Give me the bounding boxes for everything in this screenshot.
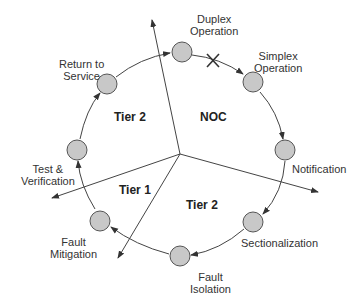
label-return-to-service: Return to Service	[59, 58, 104, 82]
region-noc: NOC	[200, 110, 227, 124]
node-fault-isolation	[170, 246, 190, 266]
arc-notification-sectionalization	[263, 161, 285, 214]
label-notification: Notification	[292, 163, 346, 175]
arc-simplex-notification	[260, 92, 283, 139]
node-test-verification	[67, 140, 87, 160]
node-notification	[275, 140, 295, 160]
label-duplex: Duplex Operation	[190, 13, 238, 37]
arc-test-return	[80, 93, 100, 139]
arc-isolation-mitigation	[111, 227, 169, 254]
arc-sectionalization-isolation	[191, 229, 244, 255]
label-fault-mitigation: Fault Mitigation	[50, 236, 97, 260]
axis-up	[152, 20, 180, 154]
axis-down	[118, 154, 180, 258]
node-fault-mitigation	[90, 211, 110, 231]
node-sectionalization	[243, 212, 263, 232]
label-simplex: Simplex Operation	[254, 50, 302, 74]
region-tier2-top: Tier 2	[114, 110, 146, 124]
node-duplex	[172, 42, 192, 62]
region-tier2-bottom: Tier 2	[186, 198, 218, 212]
region-tier1: Tier 1	[119, 183, 151, 197]
label-sectionalization: Sectionalization	[241, 237, 318, 249]
label-fault-isolation: Fault Isolation	[190, 271, 231, 295]
arc-mitigation-test	[78, 161, 95, 209]
label-test-verification: Test & Verification	[21, 163, 75, 187]
node-simplex	[243, 72, 263, 92]
